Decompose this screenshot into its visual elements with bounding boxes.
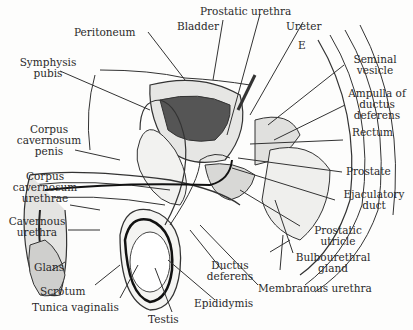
- label-prostatic-utricle: Prostatic utricle: [300, 225, 376, 247]
- label-membranous-urethra: Membranous urethra: [258, 283, 372, 294]
- label-prostatic-urethra: Prostatic urethra: [200, 6, 291, 17]
- label-scrotum: Scrotum: [40, 286, 85, 297]
- label-ureter: Ureter: [286, 21, 322, 32]
- label-epididymis: Epididymis: [194, 298, 253, 309]
- label-seminal-vesicle: Seminal vesicle: [340, 54, 410, 76]
- label-cavernous-urethra: Cavernous urethra: [4, 216, 70, 238]
- label-ejaculatory-duct: Ejaculatory duct: [334, 189, 413, 211]
- label-prostate: Prostate: [346, 166, 391, 177]
- label-glans: Glans: [34, 262, 64, 273]
- label-ampulla-ductus-deferens: Ampulla of ductus deferens: [342, 88, 412, 121]
- anatomy-diagram: Peritoneum Prostatic urethra Bladder Ure…: [0, 0, 413, 330]
- label-testis: Testis: [148, 314, 179, 325]
- label-peritoneum: Peritoneum: [74, 27, 135, 38]
- label-corpus-cavernosum-urethrae: Corpus cavernosum urethrae: [8, 171, 82, 204]
- label-tunica-vaginalis: Tunica vaginalis: [32, 302, 119, 313]
- label-ductus-deferens: Ductus deferens: [200, 260, 260, 282]
- label-symphysis-pubis: Symphysis pubis: [14, 57, 82, 79]
- label-corpus-cavernosum-penis: Corpus cavernosum penis: [14, 124, 84, 157]
- label-vertebra-mark: E: [298, 40, 306, 51]
- label-rectum: Rectum: [352, 127, 393, 138]
- label-bulbourethral-gland: Bulbourethral gland: [288, 252, 378, 274]
- label-bladder: Bladder: [177, 21, 219, 32]
